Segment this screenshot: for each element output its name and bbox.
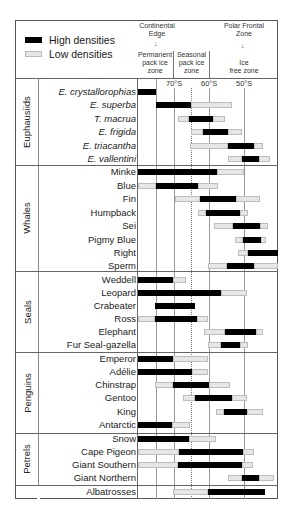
low-density-bar: [208, 342, 221, 348]
zone-seasonal-pack-ice: Seasonal pack ice zone: [174, 51, 209, 75]
low-density-bar: [197, 316, 208, 322]
row-label: Giant Southern: [72, 459, 136, 470]
row-label: Gentoo: [105, 392, 136, 403]
row-label: Albatrosses: [86, 486, 136, 497]
category-label: Petrels: [21, 433, 33, 485]
group-divider: [15, 433, 278, 434]
row-label: King: [117, 406, 136, 417]
low-density-bar: [175, 196, 200, 202]
category-label: Whales: [21, 165, 33, 271]
row-label: Adélie: [110, 366, 136, 377]
row-label: Chinstrap: [95, 379, 136, 390]
high-density-bar: [155, 303, 195, 309]
low-density-bar: [213, 116, 225, 122]
high-density-bar: [195, 395, 232, 401]
row-label: Right: [114, 247, 136, 258]
continental-edge-arrow-icon: ↓: [154, 40, 158, 47]
high-density-bar: [242, 475, 259, 481]
low-density-bar: [173, 489, 208, 495]
category-label: Euphausiids: [21, 79, 33, 165]
high-density-bar: [138, 277, 173, 283]
row-label: E. triacantha: [83, 140, 136, 151]
high-density-bar: [227, 263, 254, 269]
low-density-bar: [208, 263, 227, 269]
high-density-bar: [138, 369, 192, 375]
continental-edge-label: Continental Edge: [132, 22, 182, 38]
high-density-bar: [178, 462, 242, 468]
high-density-bar: [203, 129, 228, 135]
divider-mask: [37, 486, 40, 499]
low-density-bar: [243, 449, 254, 455]
low-density-bar: [138, 462, 178, 468]
low-density-bar: [221, 290, 247, 296]
high-density-bar: [155, 316, 197, 322]
row-label: Weddell: [102, 274, 136, 285]
row-label: Cape Pigeon: [81, 446, 136, 457]
low-density-bar: [191, 129, 203, 135]
low-density-bar: [190, 143, 228, 149]
low-density-bar: [138, 316, 155, 322]
row-label: E. superba: [90, 99, 136, 110]
row-label: Leopard: [101, 287, 136, 298]
row-label: Sei: [122, 220, 136, 231]
high-density-bar: [221, 342, 240, 348]
high-density-bar: [224, 409, 247, 415]
high-density-bar: [173, 382, 209, 388]
high-density-bar: [243, 237, 261, 243]
low-density-bar: [236, 196, 260, 202]
low-density-bar: [198, 183, 218, 189]
group-divider: [15, 271, 278, 272]
legend-high-label: High densities: [49, 34, 115, 46]
low-density-bar: [232, 395, 247, 401]
low-density-bar: [254, 263, 278, 269]
low-density-bar: [260, 223, 268, 229]
group-divider: [15, 485, 278, 486]
row-label: E. crystallorophias: [58, 86, 136, 97]
row-label: Fur Seal-gazella: [67, 339, 136, 350]
low-density-bar: [228, 156, 242, 162]
low-density-bar: [228, 475, 242, 481]
low-density-bar: [138, 449, 179, 455]
high-density-bar: [208, 489, 265, 495]
low-density-bar: [155, 382, 173, 388]
low-density-bar: [209, 382, 230, 388]
low-density-bar: [138, 183, 156, 189]
category-column-divider: [38, 79, 39, 485]
low-density-bar: [247, 409, 263, 415]
row-label: E. frigida: [99, 126, 137, 137]
high-density-bar: [138, 169, 217, 175]
high-density-bar: [138, 356, 173, 362]
low-density-bar: [198, 210, 206, 216]
polar-frontal-arrow-icon: ↓: [241, 42, 245, 49]
category-label: Penguins: [21, 352, 33, 433]
row-label: Blue: [117, 180, 136, 191]
low-density-bar: [228, 129, 242, 135]
zone-permanent-pack-ice: Permanent pack ice zone: [136, 51, 174, 75]
high-density-bar: [138, 290, 221, 296]
row-label: Sperm: [108, 260, 136, 271]
low-density-bar: [204, 329, 225, 335]
low-density-bar: [173, 356, 208, 362]
low-density-bar: [192, 369, 208, 375]
low-density-bar: [216, 409, 224, 415]
high-density-bar: [138, 436, 189, 442]
row-label: Fin: [123, 193, 136, 204]
low-density-bar: [178, 116, 189, 122]
low-density-bar: [189, 436, 216, 442]
legend-low-label: Low densities: [49, 48, 113, 60]
low-density-bar: [261, 237, 266, 243]
low-density-bar: [242, 462, 253, 468]
low-density-bar: [254, 143, 263, 149]
row-label: Minke: [111, 166, 136, 177]
high-density-bar: [233, 223, 260, 229]
row-label: T. macrua: [94, 113, 136, 124]
group-divider: [15, 352, 278, 353]
legend-high-swatch: [25, 37, 42, 43]
low-density-bar: [173, 277, 186, 283]
low-density-bar: [191, 102, 232, 108]
tick-70S: 70°S: [166, 80, 182, 88]
row-label: E. vallentini: [87, 153, 136, 164]
low-density-bar: [183, 395, 195, 401]
row-label: Pigmy Blue: [88, 234, 136, 245]
row-label: Emperor: [100, 353, 136, 364]
